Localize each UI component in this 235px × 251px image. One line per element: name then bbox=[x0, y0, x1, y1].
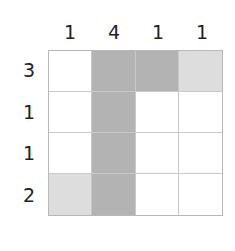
column-clues: 1 4 1 1 bbox=[48, 18, 224, 46]
grid-cell[interactable] bbox=[179, 133, 222, 174]
row-clue: 1 bbox=[14, 92, 44, 134]
row-clue: 3 bbox=[14, 50, 44, 92]
column-clue: 1 bbox=[48, 18, 92, 46]
column-clue: 1 bbox=[136, 18, 180, 46]
grid-cell[interactable] bbox=[179, 51, 222, 92]
row-clues: 3 1 1 2 bbox=[14, 50, 44, 216]
grid-cell[interactable] bbox=[136, 133, 179, 174]
grid-cell[interactable] bbox=[49, 133, 92, 174]
grid-cell[interactable] bbox=[136, 174, 179, 215]
grid-cell[interactable] bbox=[92, 133, 135, 174]
grid-cell[interactable] bbox=[49, 174, 92, 215]
grid-cell[interactable] bbox=[92, 92, 135, 133]
grid-cell[interactable] bbox=[49, 92, 92, 133]
grid-cell[interactable] bbox=[136, 51, 179, 92]
column-clue: 4 bbox=[92, 18, 136, 46]
grid-cell[interactable] bbox=[179, 92, 222, 133]
puzzle-grid bbox=[48, 50, 223, 216]
grid-cell[interactable] bbox=[136, 92, 179, 133]
grid-cell[interactable] bbox=[92, 174, 135, 215]
grid-cell[interactable] bbox=[179, 174, 222, 215]
grid-cell[interactable] bbox=[49, 51, 92, 92]
column-clue: 1 bbox=[180, 18, 224, 46]
row-clue: 2 bbox=[14, 175, 44, 217]
row-clue: 1 bbox=[14, 133, 44, 175]
grid-cell[interactable] bbox=[92, 51, 135, 92]
